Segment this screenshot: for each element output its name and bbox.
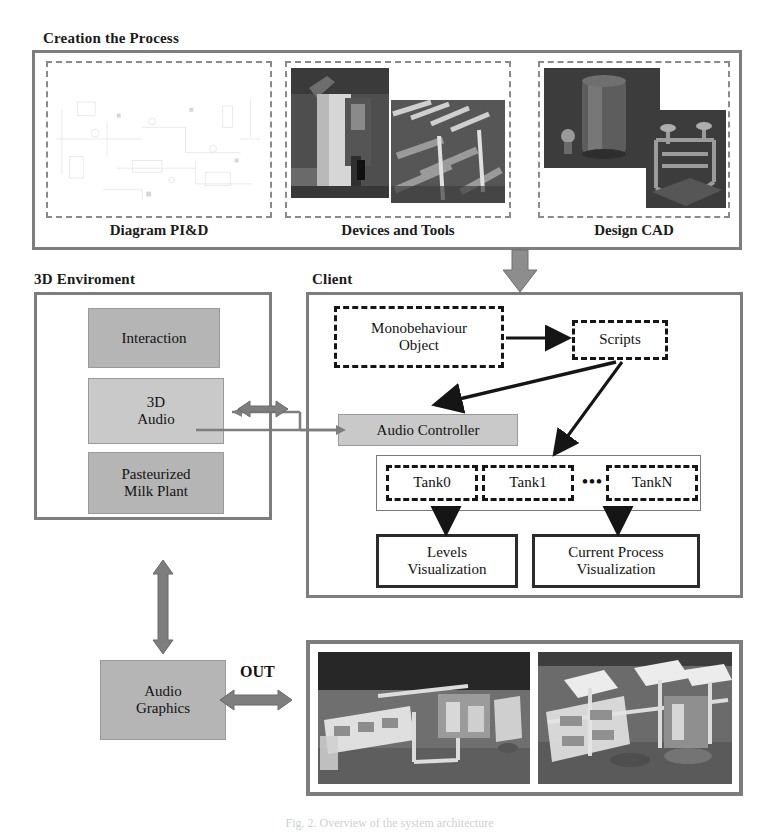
creation-item-diagram-pid <box>46 61 272 218</box>
client-tank-n: TankN <box>606 465 698 501</box>
creation-item-diagram-pid-label: Diagram PI&D <box>46 222 272 239</box>
levels-visualization-line1: Levels <box>427 544 467 561</box>
arrow-environment-to-audio-graphics <box>153 560 173 654</box>
creation-panel-title: Creation the Process <box>43 30 179 47</box>
current-process-line1: Current Process <box>568 544 663 561</box>
monobehaviour-line1: Monobehaviour <box>371 320 467 337</box>
scripts-label: Scripts <box>599 331 641 348</box>
figure-caption: Fig. 2. Overview of the system architect… <box>0 816 779 831</box>
environment-box-interaction-label: Interaction <box>122 330 187 347</box>
audio-graphics-box: Audio Graphics <box>100 660 226 740</box>
cad-render-2 <box>646 110 726 208</box>
creation-item-devices-tools-label: Devices and Tools <box>285 222 511 239</box>
client-tank-0: Tank0 <box>386 465 478 501</box>
audio-graphics-line1: Audio <box>144 683 182 700</box>
cad-render-1 <box>544 68 660 168</box>
tank-n-label: TankN <box>632 474 673 491</box>
arrow-audio-graphics-to-output <box>220 688 292 710</box>
audio-controller-label: Audio Controller <box>377 422 480 439</box>
environment-box-3d-audio-line1: 3D <box>147 394 165 411</box>
devices-photo-2 <box>391 100 505 203</box>
monobehaviour-line2: Object <box>399 337 439 354</box>
environment-box-milk-plant-line2: Milk Plant <box>124 483 188 500</box>
levels-visualization-line2: Visualization <box>407 561 486 578</box>
virtual-plant-view-2 <box>538 652 732 784</box>
creation-item-design-cad-label: Design CAD <box>538 222 730 239</box>
environment-box-pasteurized-milk-plant: Pasteurized Milk Plant <box>88 452 224 514</box>
environment-box-milk-plant-line1: Pasteurized <box>121 466 190 483</box>
client-audio-controller: Audio Controller <box>338 414 518 446</box>
client-current-process-visualization: Current Process Visualization <box>532 534 700 588</box>
client-scripts: Scripts <box>572 320 668 360</box>
client-monobehaviour-object: Monobehaviour Object <box>334 306 504 368</box>
virtual-plant-view-1 <box>318 652 530 784</box>
devices-photo-1 <box>291 68 389 198</box>
tank-0-label: Tank0 <box>413 474 450 491</box>
tanks-ellipsis: ••• <box>582 472 603 492</box>
client-levels-visualization: Levels Visualization <box>376 534 518 588</box>
environment-box-interaction: Interaction <box>88 308 220 368</box>
environment-panel-title: 3D Enviroment <box>34 271 135 288</box>
tank-1-label: Tank1 <box>509 474 546 491</box>
current-process-line2: Visualization <box>576 561 655 578</box>
out-label: OUT <box>240 663 275 681</box>
client-panel-title: Client <box>312 271 352 288</box>
arrow-creation-to-client <box>503 250 537 292</box>
environment-box-3d-audio-line2: Audio <box>137 411 175 428</box>
environment-box-3d-audio: 3D Audio <box>88 378 224 444</box>
client-tank-1: Tank1 <box>482 465 574 501</box>
audio-graphics-line2: Graphics <box>136 700 190 717</box>
diagram-canvas: Creation the Process Diagram PI&D <box>0 0 779 834</box>
